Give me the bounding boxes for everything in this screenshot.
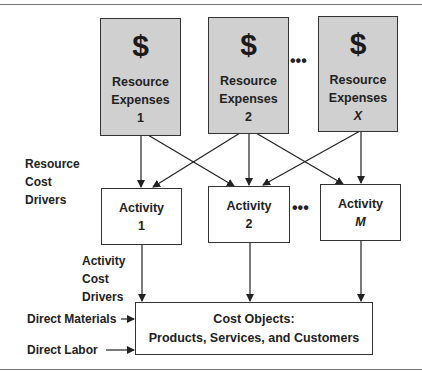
activity-label: Activity xyxy=(119,199,164,217)
ellipsis-resources: ••• xyxy=(290,52,307,70)
expenses-label: Expenses xyxy=(219,90,277,108)
activity-index: M xyxy=(355,213,365,231)
acd-line-2: Cost xyxy=(82,270,125,288)
arrow-r2-a1 xyxy=(153,133,240,187)
direct-labor-label: Direct Labor xyxy=(27,341,98,359)
activity-cost-drivers-label: Activity Cost Drivers xyxy=(82,252,125,306)
cost-objects-box: Cost Objects: Products, Services, and Cu… xyxy=(135,302,373,355)
arrow-r1-a2 xyxy=(148,135,234,186)
activity-box-2: Activity 2 xyxy=(208,186,290,243)
resource-label: Resource xyxy=(329,71,387,89)
resource-label: Resource xyxy=(111,73,169,91)
resource-index: 1 xyxy=(111,109,169,127)
arrow-rx-a2 xyxy=(263,131,360,185)
rcd-line-1: Resource xyxy=(25,155,80,173)
resource-label: Resource xyxy=(219,72,277,90)
ellipsis-activities: ••• xyxy=(292,199,309,217)
activity-index: 2 xyxy=(246,215,253,233)
activity-box-m: Activity M xyxy=(320,184,401,241)
dollar-icon: $ xyxy=(132,29,149,63)
acd-line-1: Activity xyxy=(82,252,125,270)
dollar-icon: $ xyxy=(350,27,367,61)
activity-label: Activity xyxy=(338,195,383,213)
acd-line-3: Drivers xyxy=(82,288,125,306)
activity-box-1: Activity 1 xyxy=(101,188,182,245)
rcd-line-2: Cost xyxy=(25,173,80,191)
resource-expenses-box-1: $ Resource Expenses 1 xyxy=(100,18,181,136)
activity-index: 1 xyxy=(138,217,145,235)
cost-objects-subtitle: Products, Services, and Customers xyxy=(149,329,360,348)
resource-index: X xyxy=(329,107,387,125)
resource-index: 2 xyxy=(219,108,277,126)
expenses-label: Expenses xyxy=(111,91,169,109)
resource-expenses-box-x: $ Resource Expenses X xyxy=(318,16,398,132)
activity-label: Activity xyxy=(226,197,271,215)
rcd-line-3: Drivers xyxy=(25,191,80,209)
cost-objects-title: Cost Objects: xyxy=(213,310,294,329)
expenses-label: Expenses xyxy=(329,89,387,107)
resource-cost-drivers-label: Resource Cost Drivers xyxy=(25,155,80,209)
resource-expenses-box-2: $ Resource Expenses 2 xyxy=(208,17,289,134)
dollar-icon: $ xyxy=(240,28,257,62)
arrow-r2-am xyxy=(256,133,343,184)
direct-materials-label: Direct Materials xyxy=(27,310,116,328)
